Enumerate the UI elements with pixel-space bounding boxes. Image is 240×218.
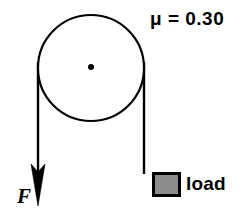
- load-block: [154, 174, 180, 196]
- pulley-axle-dot: [88, 64, 94, 70]
- friction-coefficient-label: μ = 0.30: [150, 9, 224, 28]
- load-label: load: [186, 174, 226, 193]
- pulley-diagram-figure: μ = 0.30 load F: [0, 0, 240, 218]
- force-symbol-label: F: [17, 186, 31, 207]
